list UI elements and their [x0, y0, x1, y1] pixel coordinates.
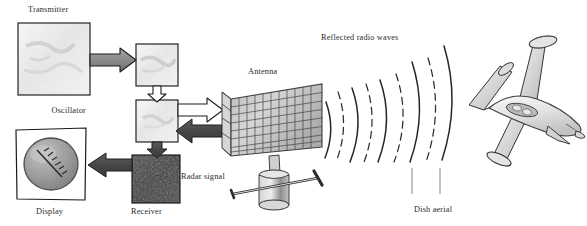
transmitter-block [18, 23, 90, 95]
diagram-canvas: Transmitter Oscillator Display Receiver … [0, 0, 587, 226]
arrow-oscillator-to-antenna [178, 98, 223, 122]
label-oscillator: Oscillator [51, 106, 86, 115]
label-antenna: Antenna [248, 67, 278, 76]
arrow-transmitter-to-oscillator [90, 48, 136, 72]
label-display: Display [36, 207, 64, 216]
label-radar-signal: Radar signal [181, 172, 225, 181]
display-block [16, 128, 86, 200]
display-scope [24, 138, 78, 190]
arrow-antenna-to-oscillator [176, 119, 222, 143]
oscillator-upper-block [136, 44, 178, 86]
reflected-radio-waves [325, 46, 452, 162]
label-dish-aerial: Dish aerial [414, 205, 453, 214]
label-transmitter: Transmitter [28, 5, 68, 14]
oscillator-block [136, 100, 178, 142]
label-receiver: Receiver [131, 207, 162, 216]
aircraft [469, 34, 585, 169]
antenna-assembly [222, 84, 322, 210]
label-reflected-radio-waves: Reflected radio waves [321, 33, 399, 42]
arrow-receiver-to-display [88, 153, 132, 177]
radar-diagram: Transmitter Oscillator Display Receiver … [0, 0, 587, 226]
dish-aerial-leader [412, 168, 440, 194]
receiver-block [132, 155, 180, 203]
